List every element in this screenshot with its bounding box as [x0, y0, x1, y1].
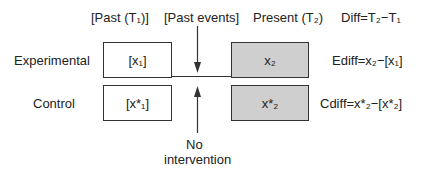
control-diff-formula: Cdiff=x*₂−[x*₂]	[320, 96, 402, 111]
no-intervention-label-line1: No	[186, 137, 203, 152]
past-events-down-arrow-icon	[194, 26, 201, 73]
arrows-layer	[0, 0, 426, 172]
no-intervention-label-line2: intervention	[164, 152, 231, 167]
no-intervention-up-arrow-icon	[194, 86, 201, 133]
experimental-diff-formula: Ediff=x₂−[x₁]	[332, 53, 403, 68]
